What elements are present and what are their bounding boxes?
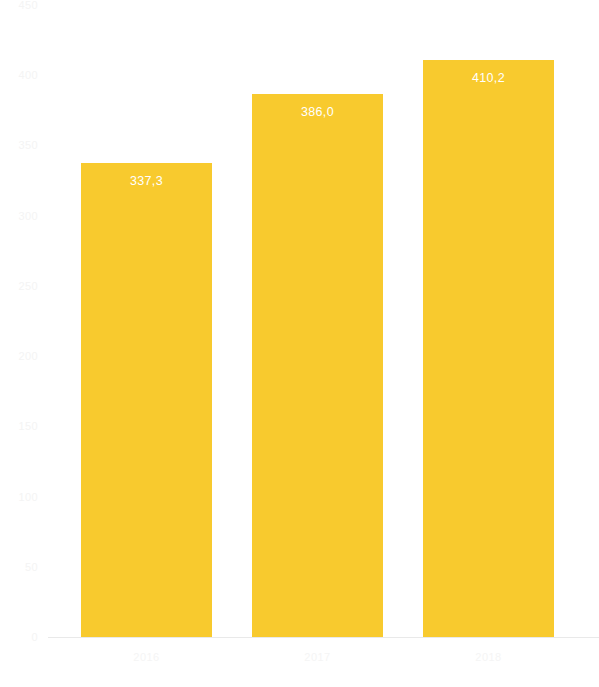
y-axis-tick-label: 50 [25,561,38,572]
bar-value-label-2016: 337,3 [81,175,212,188]
bar-2016[interactable]: 337,3 [81,163,212,637]
x-axis-tick-label-2018: 2018 [475,652,501,663]
y-axis-tick-label: 300 [18,210,38,221]
y-axis-tick-label: 450 [18,0,38,11]
x-axis-tick-label-2016: 2016 [133,652,159,663]
bar-chart: 450 400 350 300 250 200 150 100 50 0 337… [0,0,599,687]
bar-value-label-2017: 386,0 [252,106,383,119]
x-axis: 2016 2017 2018 [48,638,599,687]
bar-value-label-2018: 410,2 [423,72,554,85]
y-axis: 450 400 350 300 250 200 150 100 50 0 [0,0,48,687]
plot-area: 337,3 386,0 410,2 [48,0,599,637]
bar-2017[interactable]: 386,0 [252,94,383,637]
y-axis-tick-label: 200 [18,351,38,362]
bar-2018[interactable]: 410,2 [423,60,554,637]
y-axis-tick-label: 250 [18,280,38,291]
y-axis-tick-label: 150 [18,421,38,432]
y-axis-tick-label: 100 [18,491,38,502]
y-axis-tick-label: 350 [18,140,38,151]
x-axis-tick-label-2017: 2017 [304,652,330,663]
y-axis-tick-label: 400 [18,70,38,81]
y-axis-tick-label: 0 [31,632,38,643]
